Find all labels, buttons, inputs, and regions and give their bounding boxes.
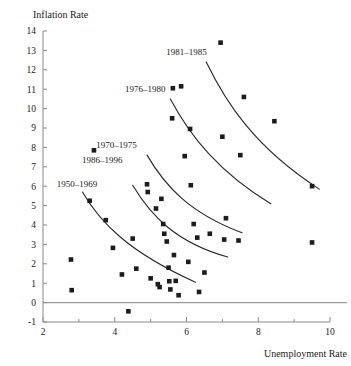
data-point <box>171 86 176 91</box>
y-tick-labels: -101234567891011121314 <box>27 26 37 327</box>
data-point <box>189 183 194 188</box>
fitted-curve <box>82 192 195 282</box>
data-point <box>154 206 159 211</box>
y-tick-label: 8 <box>31 143 36 153</box>
data-point <box>202 270 207 275</box>
y-tick-label: 0 <box>31 298 36 308</box>
data-point <box>310 184 315 189</box>
y-tick-label: 14 <box>27 26 37 36</box>
data-point <box>157 285 162 290</box>
data-point <box>126 309 131 314</box>
y-tick-label: 7 <box>31 162 36 172</box>
data-point <box>310 240 315 245</box>
y-tick-label: 13 <box>27 46 37 56</box>
data-points <box>69 40 315 313</box>
data-point <box>195 235 200 240</box>
y-tick-label: 11 <box>27 85 36 95</box>
x-tick-label: 6 <box>184 327 189 337</box>
y-tick-label: 6 <box>31 182 36 192</box>
fitted-curve <box>206 62 319 189</box>
data-point <box>148 276 153 281</box>
data-point <box>173 279 178 284</box>
y-tick-label: 2 <box>31 259 36 269</box>
data-point <box>242 95 247 100</box>
series-label: 1986–1996 <box>82 155 123 165</box>
data-point <box>208 231 213 236</box>
series-label: 1950–1969 <box>57 179 98 189</box>
x-tick-label: 10 <box>325 327 335 337</box>
data-point <box>220 134 225 139</box>
data-point <box>176 293 181 298</box>
data-point <box>186 260 191 265</box>
data-point <box>272 119 277 124</box>
y-tick-label: 1 <box>31 279 36 289</box>
data-point <box>197 290 202 295</box>
data-point <box>161 222 166 227</box>
data-point <box>111 246 116 251</box>
data-point <box>188 127 193 132</box>
data-point <box>130 236 135 241</box>
data-point <box>170 116 175 121</box>
y-tick-label: -1 <box>28 317 36 327</box>
y-tick-label: 9 <box>31 123 36 133</box>
x-axis-title: Unemployment Rate <box>264 348 348 359</box>
data-point <box>182 154 187 159</box>
fitted-curve <box>133 185 228 257</box>
data-point <box>166 265 171 270</box>
data-point <box>168 287 173 292</box>
series-label: 1970–1975 <box>96 140 137 150</box>
x-tick-label: 8 <box>256 327 261 337</box>
data-point <box>69 257 74 262</box>
data-point <box>238 153 243 158</box>
y-tick-label: 5 <box>31 201 36 211</box>
series-label: 1976–1980 <box>125 84 166 94</box>
x-tick-labels: 246810 <box>41 327 335 337</box>
data-point <box>159 197 164 202</box>
data-point <box>191 222 196 227</box>
data-point <box>134 266 139 271</box>
data-point <box>224 216 229 221</box>
phillips-curve-chart: -101234567891011121314 246810 Inflation … <box>0 0 351 366</box>
data-point <box>236 238 241 243</box>
y-tick-label: 3 <box>31 240 36 250</box>
data-point <box>179 84 184 89</box>
data-point <box>145 190 150 195</box>
data-point <box>87 198 92 203</box>
data-point <box>103 218 108 223</box>
data-point <box>222 237 227 242</box>
data-point <box>218 40 223 45</box>
series-label: 1981–1985 <box>166 47 207 57</box>
y-tick-label: 4 <box>31 220 36 230</box>
data-point <box>69 288 74 293</box>
y-axis-title: Inflation Rate <box>33 9 89 20</box>
y-tick-label: 12 <box>27 65 37 75</box>
data-point <box>162 231 167 236</box>
data-point <box>167 279 172 284</box>
y-tick-label: 10 <box>27 104 37 114</box>
data-point <box>172 253 177 258</box>
fitted-curves <box>82 62 319 282</box>
data-point <box>120 272 125 277</box>
data-point <box>164 239 169 244</box>
series-annotations: 1981–19851976–19801970–19751986–19961950… <box>57 47 207 189</box>
fitted-curve <box>170 99 270 204</box>
x-tick-label: 2 <box>41 327 46 337</box>
chart-canvas: -101234567891011121314 246810 Inflation … <box>0 0 351 366</box>
x-tick-label: 4 <box>112 327 117 337</box>
data-point <box>145 182 150 187</box>
